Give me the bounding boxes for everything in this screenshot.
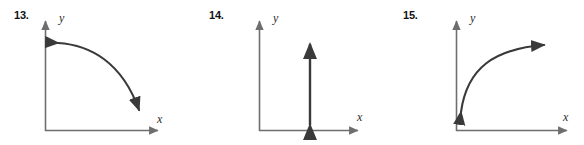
x-axis-label-15: x (562, 110, 569, 124)
figure-panel-15: 15. y x (389, 0, 584, 145)
y-axis-label-13: y (58, 11, 65, 25)
graph-13: y x (0, 0, 195, 145)
x-axis-label-14: x (356, 110, 363, 124)
figure-row: 13. y x 14. (0, 0, 584, 145)
curve-15 (461, 45, 544, 112)
figure-panel-13: 13. y x (0, 0, 195, 145)
graph-15: y x (389, 0, 584, 145)
y-axis-label-15: y (469, 11, 476, 25)
figure-panel-14: 14. y x (195, 0, 390, 145)
curve-13 (58, 43, 139, 110)
y-axis-label-14: y (272, 11, 279, 25)
graph-14: y x (195, 0, 390, 145)
x-axis-label-13: x (156, 112, 163, 126)
